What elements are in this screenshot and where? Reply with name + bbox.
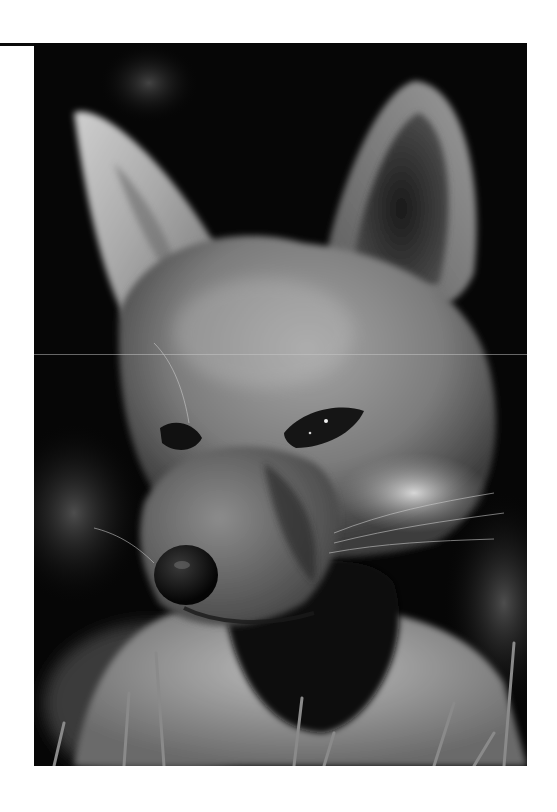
scan-seam-line bbox=[34, 354, 527, 355]
fox-eye-right-catchlight bbox=[324, 419, 328, 423]
fox-nose-highlight bbox=[174, 561, 190, 569]
fox-nose bbox=[154, 545, 218, 605]
background-blur-highlight bbox=[99, 43, 199, 123]
fox-forehead-highlight bbox=[174, 278, 354, 388]
fox-photo-illustration bbox=[34, 43, 527, 766]
fox-photo bbox=[34, 43, 527, 766]
page bbox=[0, 0, 557, 812]
fox-cheek-white bbox=[339, 453, 489, 533]
fox-eye-right-glint bbox=[309, 432, 312, 435]
